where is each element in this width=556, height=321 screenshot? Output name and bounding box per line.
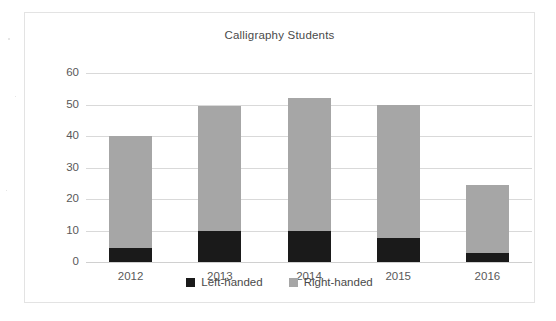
gridline-0 [86,262,532,263]
legend-entry-right-handed: Right-handed [289,277,373,289]
y-axis-tick-30: 30 [66,162,79,174]
y-axis-tick-10: 10 [66,225,79,237]
bar-segment-right-handed-2015[interactable] [377,105,420,239]
bar-2016[interactable]: 2016 [466,185,509,262]
bar-segment-left-handed-2014[interactable] [288,231,331,263]
legend-swatch-right-handed [289,278,298,287]
plot-area: 010203040506020122013201420152016 [86,73,532,262]
bar-segment-left-handed-2013[interactable] [198,231,241,263]
bar-segment-right-handed-2013[interactable] [198,106,241,230]
bar-segment-right-handed-2016[interactable] [466,185,509,253]
legend-label-right-handed: Right-handed [304,277,373,289]
bar-2013[interactable]: 2013 [198,106,241,262]
y-axis-tick-50: 50 [66,99,79,111]
y-axis-tick-40: 40 [66,130,79,142]
legend-entry-left-handed: Left-handed [186,277,262,289]
bar-segment-right-handed-2014[interactable] [288,98,331,230]
bar-segment-left-handed-2016[interactable] [466,253,509,262]
bar-2012[interactable]: 2012 [109,136,152,262]
legend-label-left-handed: Left-handed [201,277,262,289]
bar-segment-right-handed-2012[interactable] [109,136,152,248]
bar-segment-left-handed-2015[interactable] [377,238,420,262]
legend-swatch-left-handed [186,278,195,287]
gridline-60 [86,73,532,74]
bar-2015[interactable]: 2015 [377,105,420,263]
bar-2014[interactable]: 2014 [288,98,331,262]
y-axis-tick-20: 20 [66,193,79,205]
bar-segment-left-handed-2012[interactable] [109,248,152,262]
y-axis-tick-60: 60 [66,67,79,79]
chart-legend: Left-handed Right-handed [25,277,534,289]
y-axis-tick-0: 0 [73,256,79,268]
chart-frame: Calligraphy Students 0102030405060201220… [24,12,535,303]
chart-title: Calligraphy Students [25,29,534,41]
